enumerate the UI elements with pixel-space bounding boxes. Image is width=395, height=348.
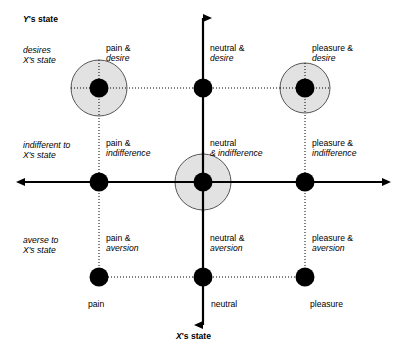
cell-label-neutral-desire-line2: desire bbox=[210, 53, 244, 63]
node-neutral-aversion[interactable] bbox=[194, 268, 213, 287]
cell-label-pain-aversion: pain & aversion bbox=[106, 233, 138, 254]
row-label-indifferent: indifferent to X's state bbox=[23, 140, 70, 161]
x-axis-title: X's state bbox=[176, 331, 211, 341]
cell-label-pleasure-desire-line2: desire bbox=[312, 53, 353, 63]
cell-label-pain-aversion-line2: aversion bbox=[106, 243, 138, 253]
cell-label-neutral-desire: neutral & desire bbox=[210, 43, 244, 64]
cell-label-neutral-indifference-line1: neutral bbox=[210, 138, 263, 148]
node-pleasure-aversion[interactable] bbox=[296, 268, 315, 287]
row-label-averse-line1: averse to bbox=[23, 235, 58, 245]
cell-label-pleasure-indifference-line2: indifference bbox=[312, 148, 356, 158]
cell-label-pain-desire-line2: desire bbox=[106, 53, 130, 63]
node-neutral-desire[interactable] bbox=[194, 79, 213, 98]
cell-label-pain-indifference-line1: pain & bbox=[106, 138, 150, 148]
cell-label-neutral-aversion-line2: aversion bbox=[210, 243, 244, 253]
node-pain-indifference[interactable] bbox=[90, 173, 109, 192]
node-neutral-indifference[interactable] bbox=[194, 173, 213, 192]
cell-label-pain-desire: pain & desire bbox=[106, 43, 130, 64]
cell-label-pleasure-aversion: pleasure & aversion bbox=[312, 233, 353, 254]
node-pleasure-indifference[interactable] bbox=[296, 173, 315, 192]
row-label-desires-line1: desires bbox=[23, 45, 56, 55]
cell-label-pain-desire-line1: pain & bbox=[106, 43, 130, 53]
x-axis-title-text: 's state bbox=[182, 331, 211, 341]
cell-label-pleasure-indifference-line1: pleasure & bbox=[312, 138, 356, 148]
cell-label-pleasure-aversion-line1: pleasure & bbox=[312, 233, 353, 243]
row-label-desires-line2: X's state bbox=[23, 55, 56, 65]
tick-label-pleasure: pleasure bbox=[310, 299, 343, 309]
row-label-indifferent-line1: indifferent to bbox=[23, 140, 70, 150]
node-pain-aversion[interactable] bbox=[90, 268, 109, 287]
node-pain-desire[interactable] bbox=[90, 79, 109, 98]
row-label-averse-line2: X's state bbox=[23, 245, 58, 255]
cell-label-pain-indifference-line2: indifference bbox=[106, 148, 150, 158]
cell-label-neutral-desire-line1: neutral & bbox=[210, 43, 244, 53]
cell-label-pleasure-aversion-line2: aversion bbox=[312, 243, 353, 253]
row-label-indifferent-line2: X's state bbox=[23, 150, 70, 160]
tick-label-pain: pain bbox=[88, 299, 104, 309]
row-label-averse: averse to X's state bbox=[23, 235, 58, 256]
cell-label-neutral-indifference-line2: & indifference bbox=[210, 148, 263, 158]
cell-label-pain-indifference: pain & indifference bbox=[106, 138, 150, 159]
cell-label-neutral-indifference: neutral & indifference bbox=[210, 138, 263, 159]
node-pleasure-desire[interactable] bbox=[296, 79, 315, 98]
y-axis-title: Y's state bbox=[23, 14, 58, 24]
cell-label-pain-aversion-line1: pain & bbox=[106, 233, 138, 243]
y-axis-title-text: 's state bbox=[29, 14, 58, 24]
cell-label-pleasure-indifference: pleasure & indifference bbox=[312, 138, 356, 159]
cell-label-pleasure-desire: pleasure & desire bbox=[312, 43, 353, 64]
state-space-diagram: Y's state X's state desires X's state in… bbox=[0, 0, 395, 348]
tick-label-neutral: neutral bbox=[211, 299, 237, 309]
row-label-desires: desires X's state bbox=[23, 45, 56, 66]
cell-label-neutral-aversion: neutral & aversion bbox=[210, 233, 244, 254]
cell-label-pleasure-desire-line1: pleasure & bbox=[312, 43, 353, 53]
cell-label-neutral-aversion-line1: neutral & bbox=[210, 233, 244, 243]
